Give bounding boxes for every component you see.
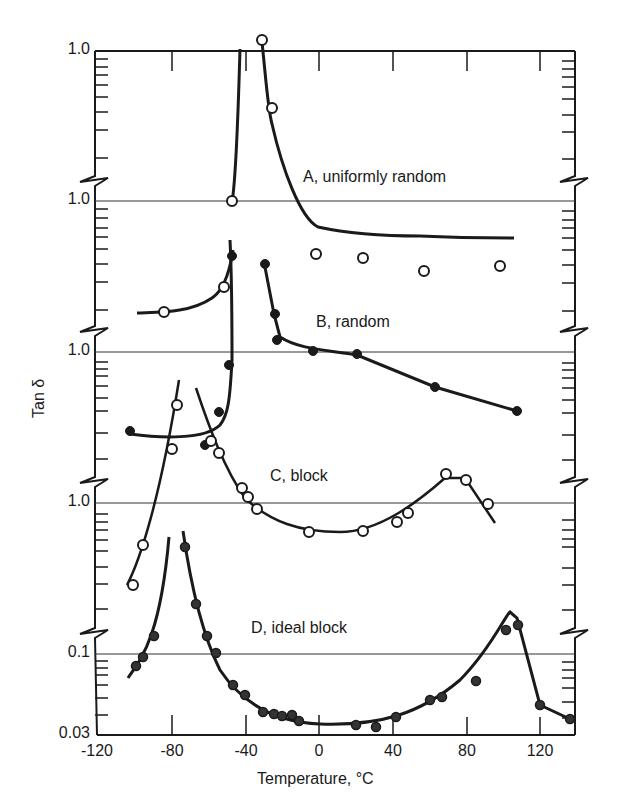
x-label-80: 80 [437, 742, 497, 760]
curve-label-d: D, ideal block [251, 619, 347, 637]
curve-label-b: B, random [316, 313, 390, 331]
x-label-0: 0 [289, 742, 349, 760]
y-label-panel-d-upper: 1.0 [30, 492, 90, 510]
tan-delta-chart [0, 0, 626, 811]
y-label-panel-d-0.03: 0.03 [30, 724, 90, 742]
x-label-minus-80: -80 [142, 742, 202, 760]
x-ticks [172, 51, 540, 735]
series-b-random [130, 240, 517, 437]
x-label-40: 40 [363, 742, 423, 760]
y-label-panel-c: 1.0 [30, 341, 90, 359]
series-c-markers [128, 400, 493, 590]
series-d-markers [132, 543, 575, 732]
x-axis-title: Temperature, °C [257, 770, 374, 788]
curve-label-a: A, uniformly random [303, 168, 446, 186]
y-label-panel-b: 1.0 [30, 190, 90, 208]
y-axis-title: Tan δ [30, 379, 48, 418]
x-label-minus-40: -40 [216, 742, 276, 760]
x-label-120: 120 [510, 742, 570, 760]
y-label-panel-d-0.1: 0.1 [30, 643, 90, 661]
curve-label-c: C, block [270, 467, 328, 485]
x-label-minus-120: -120 [67, 742, 127, 760]
y-label-panel-a: 1.0 [30, 40, 90, 58]
